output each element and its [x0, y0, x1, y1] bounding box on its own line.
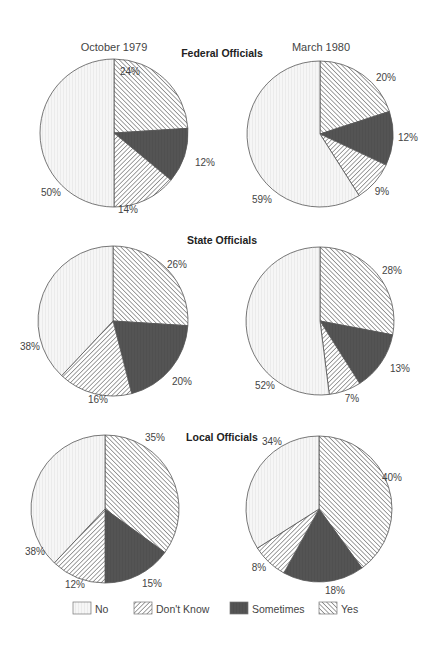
pie-local-officials-march-1980: 40%18%8%34% [246, 436, 402, 596]
slice-label-don-t-know: 16% [88, 394, 108, 405]
slice-no [246, 247, 329, 395]
pie-state-officials-october-1979: 26%20%16%38% [20, 246, 192, 405]
slice-label-sometimes: 12% [195, 157, 215, 168]
legend-swatch-don-t-know [134, 602, 152, 614]
legend-item-yes: Yes [319, 602, 358, 615]
pie-local-officials-october-1979: 35%15%12%38% [25, 432, 179, 590]
slice-label-yes: 35% [145, 432, 165, 443]
slice-label-no: 52% [255, 380, 275, 391]
slice-label-sometimes: 13% [390, 363, 410, 374]
slice-label-no: 38% [25, 546, 45, 557]
pie-federal-officials-october-1979: 24%12%14%50% [40, 59, 215, 215]
legend-label-don-t-know: Don't Know [156, 603, 210, 615]
slice-label-no: 50% [41, 187, 61, 198]
legend-item-sometimes: Sometimes [230, 602, 305, 615]
slice-label-yes: 24% [120, 66, 140, 77]
column-title-march-1980: March 1980 [292, 41, 350, 53]
slice-label-yes: 40% [382, 472, 402, 483]
pie-federal-officials-march-1980: 20%12%9%59% [247, 61, 418, 207]
section-title-local-officials: Local Officials [186, 431, 258, 443]
slice-yes [320, 247, 394, 335]
slice-label-yes: 20% [376, 72, 396, 83]
slice-label-no: 59% [252, 194, 272, 205]
slice-label-no: 38% [20, 341, 40, 352]
slice-label-sometimes: 15% [142, 578, 162, 589]
slice-label-sometimes: 20% [172, 376, 192, 387]
slice-label-don-t-know: 9% [375, 186, 390, 197]
slice-no [40, 59, 114, 207]
slice-label-sometimes: 12% [398, 132, 418, 143]
legend-swatch-no [73, 602, 91, 614]
section-title-federal-officials: Federal Officials [181, 47, 263, 59]
legend-label-no: No [95, 603, 109, 615]
section-title-state-officials: State Officials [187, 234, 257, 246]
legend-swatch-sometimes [230, 602, 248, 614]
pie-state-officials-march-1980: 28%13%7%52% [246, 247, 410, 404]
legend-item-no: No [73, 602, 109, 615]
legend-label-yes: Yes [341, 603, 358, 615]
slice-label-don-t-know: 12% [65, 579, 85, 590]
pies: 24%12%14%50%20%12%9%59%26%20%16%38%28%13… [20, 59, 418, 596]
slice-label-don-t-know: 8% [252, 562, 267, 573]
legend-label-sometimes: Sometimes [252, 603, 305, 615]
slice-label-yes: 28% [382, 265, 402, 276]
slice-label-don-t-know: 14% [118, 204, 138, 215]
slice-label-don-t-know: 7% [345, 393, 360, 404]
column-title-october-1979: October 1979 [81, 41, 148, 53]
slice-label-yes: 26% [167, 259, 187, 270]
legend-swatch-yes [319, 602, 337, 614]
slice-label-no: 34% [262, 436, 282, 447]
slice-label-sometimes: 18% [325, 585, 345, 596]
slice-yes [113, 246, 188, 326]
pie-charts-figure: October 1979March 1980Federal OfficialsS… [0, 0, 430, 652]
legend: NoDon't KnowSometimesYes [73, 602, 358, 615]
legend-item-don-t-know: Don't Know [134, 602, 210, 615]
